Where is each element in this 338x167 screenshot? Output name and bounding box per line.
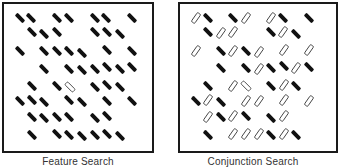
black-bar — [102, 27, 113, 38]
black-bar — [102, 111, 113, 122]
white-bar — [279, 44, 289, 55]
black-bar — [291, 81, 302, 92]
black-bar — [266, 113, 277, 124]
black-bar — [90, 13, 101, 24]
black-bar — [102, 62, 113, 73]
white-bar — [266, 12, 276, 23]
black-bar — [27, 130, 38, 141]
black-bar — [39, 64, 50, 75]
black-bar — [39, 29, 50, 40]
black-bar — [27, 112, 38, 123]
black-bar — [203, 130, 214, 141]
black-bar — [191, 96, 202, 107]
black-bar — [27, 81, 38, 92]
black-bar — [64, 130, 75, 141]
black-bar — [64, 95, 75, 106]
black-bar — [115, 29, 126, 40]
black-bar — [52, 81, 63, 92]
white-bar — [241, 128, 251, 139]
black-bar — [304, 13, 315, 24]
white-bar — [254, 63, 264, 74]
black-bar — [266, 130, 277, 141]
white-bar — [254, 46, 264, 57]
black-bar — [52, 27, 63, 38]
black-bar — [64, 112, 75, 123]
black-bar — [127, 46, 138, 57]
black-bar — [77, 65, 88, 76]
black-bar — [77, 131, 88, 142]
black-bar — [279, 61, 290, 72]
black-bar — [101, 13, 112, 24]
black-bar — [203, 27, 214, 38]
white-bar — [228, 80, 238, 91]
black-bar — [216, 46, 227, 57]
black-bar — [203, 13, 214, 24]
black-bar — [127, 62, 138, 73]
black-bar — [64, 13, 75, 24]
feature-search-caption: Feature Search — [2, 156, 154, 167]
black-bar — [90, 64, 101, 75]
black-bar — [90, 27, 101, 38]
conjunction-search-items — [191, 12, 315, 140]
white-bar — [241, 12, 251, 23]
black-bar — [102, 80, 113, 91]
conjunction-search-caption: Conjunction Search — [178, 156, 328, 167]
black-bar — [241, 111, 252, 122]
black-bar — [90, 82, 101, 93]
black-bar — [15, 13, 26, 24]
white-bar — [279, 128, 289, 139]
black-bar — [203, 81, 214, 92]
black-bar — [241, 46, 252, 57]
black-bar — [216, 63, 227, 74]
white-bar — [279, 94, 289, 105]
black-bar — [39, 97, 50, 108]
white-bar — [228, 45, 238, 56]
black-bar — [241, 63, 252, 74]
white-bar — [203, 94, 213, 105]
white-bar — [279, 110, 289, 121]
white-bar — [203, 111, 213, 122]
black-bar — [77, 97, 88, 108]
black-bar — [15, 96, 26, 107]
target-white-bar — [65, 82, 76, 93]
black-bar — [27, 95, 38, 106]
black-bar — [102, 96, 113, 107]
black-bar — [39, 46, 50, 57]
black-bar — [15, 46, 26, 57]
black-bar — [102, 45, 113, 56]
white-bar — [279, 79, 289, 90]
black-bar — [127, 96, 138, 107]
black-bar — [304, 62, 315, 73]
black-bar — [39, 113, 50, 124]
black-bar — [27, 27, 38, 38]
black-bar — [115, 131, 126, 142]
black-bar — [26, 13, 37, 24]
black-bar — [115, 64, 126, 75]
black-bar — [52, 46, 63, 57]
white-bar — [278, 26, 288, 37]
black-bar — [64, 64, 75, 75]
black-bar — [52, 129, 63, 140]
black-bar — [216, 112, 227, 123]
white-bar — [254, 128, 264, 139]
white-bar — [228, 110, 238, 121]
feature-search-items — [15, 13, 138, 142]
white-bar — [304, 44, 314, 55]
black-bar — [266, 63, 277, 74]
black-bar — [52, 112, 63, 123]
black-bar — [266, 27, 277, 38]
black-bar — [127, 13, 138, 24]
white-bar — [228, 128, 238, 139]
white-bar — [254, 95, 264, 106]
white-bar — [216, 27, 226, 38]
white-bar — [241, 95, 251, 106]
black-bar — [278, 13, 289, 24]
white-bar — [191, 45, 201, 56]
black-bar — [77, 48, 88, 59]
target-white-bar — [241, 81, 252, 92]
black-bar — [64, 46, 75, 57]
white-bar — [304, 95, 314, 106]
white-bar — [291, 62, 301, 73]
black-bar — [216, 97, 227, 108]
black-bar — [90, 113, 101, 124]
